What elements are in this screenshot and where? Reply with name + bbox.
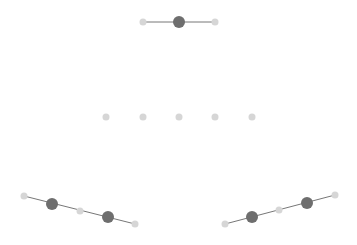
light-dot xyxy=(222,221,229,228)
dark-dot xyxy=(173,16,185,28)
dark-dot xyxy=(102,211,114,223)
light-dot xyxy=(140,114,147,121)
light-dot xyxy=(276,207,283,214)
dark-dot xyxy=(46,198,58,210)
light-dot xyxy=(212,19,219,26)
middle-row xyxy=(103,114,256,121)
light-dot xyxy=(176,114,183,121)
light-dot xyxy=(21,193,28,200)
dark-dot xyxy=(246,211,258,223)
light-dot xyxy=(332,192,339,199)
light-dot xyxy=(249,114,256,121)
bottom-right-group xyxy=(222,192,339,228)
light-dot xyxy=(103,114,110,121)
dot-diagram-canvas xyxy=(0,0,357,245)
light-dot xyxy=(140,19,147,26)
bottom-left-group xyxy=(21,193,139,228)
dark-dot xyxy=(301,197,313,209)
light-dot xyxy=(77,208,84,215)
light-dot xyxy=(212,114,219,121)
light-dot xyxy=(132,221,139,228)
top-group xyxy=(140,16,219,28)
